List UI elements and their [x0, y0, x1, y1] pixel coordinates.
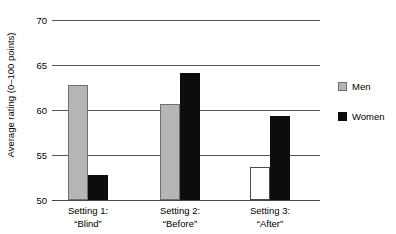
plot-area: 5055606570 — [52, 20, 320, 200]
y-tick-label-55: 55 — [36, 150, 47, 161]
legend-item-men: Men — [338, 81, 396, 92]
legend-item-women: Women — [338, 111, 396, 122]
y-tick-label-60: 60 — [36, 105, 47, 116]
category-label-line2: “Before” — [135, 217, 225, 230]
legend-swatch-women — [338, 112, 347, 121]
category-label-line1: Setting 2: — [135, 204, 225, 217]
category-label-1: Setting 1:“Blind” — [43, 204, 133, 230]
legend-label-men: Men — [352, 81, 370, 92]
gridline-65: 65 — [52, 65, 320, 66]
y-tick-label-65: 65 — [36, 60, 47, 71]
legend: MenWomen — [338, 81, 396, 141]
bar-1-women — [88, 175, 108, 200]
category-label-line2: “Blind” — [43, 217, 133, 230]
bar-chart: Average rating (0–100 points) 5055606570… — [0, 0, 396, 234]
category-label-line2: “After” — [225, 217, 315, 230]
category-label-3: Setting 3:“After” — [225, 204, 315, 230]
bar-1-men — [68, 85, 88, 200]
bar-2-men — [160, 104, 180, 200]
y-tick-label-70: 70 — [36, 15, 47, 26]
category-label-line1: Setting 3: — [225, 204, 315, 217]
category-label-2: Setting 2:“Before” — [135, 204, 225, 230]
legend-swatch-men — [338, 82, 347, 91]
bar-3-women — [270, 116, 290, 200]
legend-label-women: Women — [352, 111, 385, 122]
category-label-line1: Setting 1: — [43, 204, 133, 217]
bar-3-men — [250, 167, 270, 200]
gridline-70: 70 — [52, 20, 320, 21]
y-axis-title: Average rating (0–100 points) — [1, 0, 19, 212]
bar-2-women — [180, 73, 200, 200]
gridline-50: 50 — [52, 200, 320, 201]
